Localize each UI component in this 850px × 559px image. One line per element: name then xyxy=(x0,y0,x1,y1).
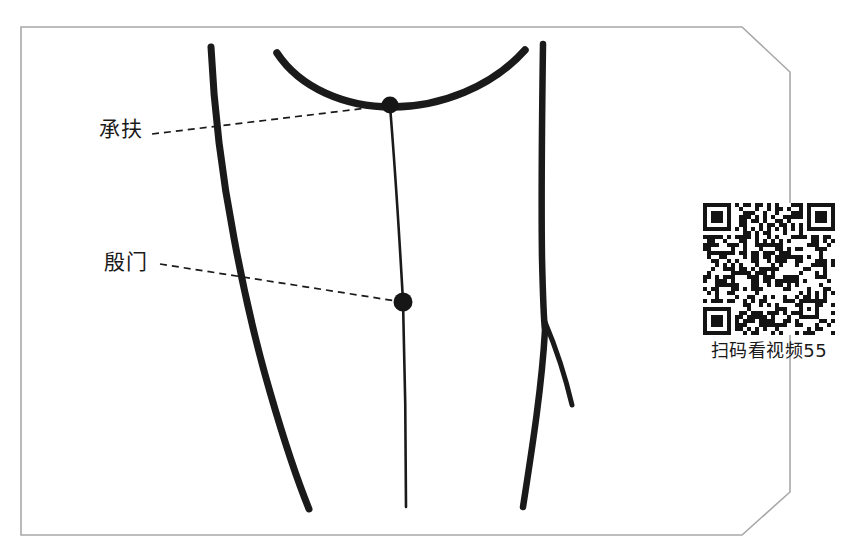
qr-code-icon[interactable] xyxy=(703,203,835,335)
acupoint-label-chengfu: 承扶 xyxy=(99,119,143,140)
acupoint-dot-yinmen[interactable] xyxy=(394,293,413,312)
acupoint-label-yinmen: 殷门 xyxy=(104,252,148,273)
illustration-canvas: 承扶 殷门 扫码看视频55 xyxy=(0,0,850,559)
qr-code-block[interactable]: 扫码看视频55 xyxy=(700,203,838,361)
qr-caption-text: 扫码看视频55 xyxy=(700,341,838,361)
acupoint-dot-chengfu[interactable] xyxy=(382,97,399,114)
